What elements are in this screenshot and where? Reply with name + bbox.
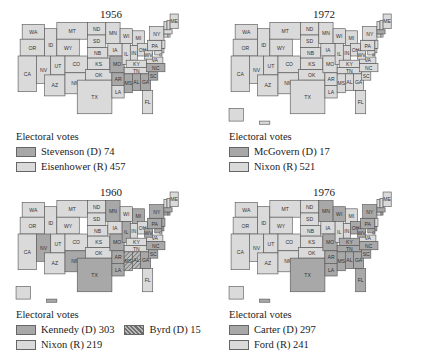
state-label: FL [145, 277, 151, 283]
state-label: LA [328, 267, 335, 273]
state-ct [164, 34, 168, 37]
legend-swatch [229, 325, 249, 335]
legend-swatch [16, 147, 36, 157]
legend-swatch [16, 162, 36, 172]
state-label: MT [281, 206, 289, 212]
legend-label: Stevenson (D) 74 [41, 145, 115, 158]
state-label: AR [328, 254, 335, 260]
state-label: SC [150, 251, 157, 257]
state-label: UT [267, 62, 275, 68]
legend-label: Nixon (R) 219 [41, 338, 102, 351]
state-label: CO [285, 61, 293, 67]
state-label: MT [68, 206, 76, 212]
state-label: WV [145, 230, 154, 236]
state-label: IL [124, 229, 128, 235]
state-label: WI [336, 211, 342, 217]
state-label: SC [363, 251, 370, 257]
legend-entry: Eisenhower (R) 457 [16, 160, 126, 173]
state-label: WV [358, 230, 367, 236]
state-label: AZ [52, 82, 58, 88]
legend-swatch [124, 325, 144, 335]
state-ak [229, 108, 243, 121]
state-label: WY [64, 45, 73, 51]
state-label: TX [304, 94, 311, 100]
state-label: MN [109, 208, 117, 214]
state-label: TN [346, 246, 353, 252]
state-ri [381, 212, 383, 215]
legend-label: Eisenhower (R) 457 [41, 160, 126, 173]
state-label: WY [277, 223, 286, 229]
state-label: NC [365, 65, 373, 71]
state-label: MN [322, 208, 330, 214]
state-label: FL [145, 99, 151, 105]
state-label: KY [346, 61, 353, 67]
state-label: PA [365, 43, 372, 49]
state-label: MI [136, 213, 142, 219]
state-label: LA [115, 89, 122, 95]
state-label: AR [115, 76, 122, 82]
legend-title: Electoral votes [229, 130, 340, 143]
legend-swatch [16, 340, 36, 350]
state-label: AZ [265, 82, 271, 88]
state-label: MO [326, 61, 334, 67]
state-label: WI [123, 211, 129, 217]
state-ct [377, 34, 381, 37]
state-label: MT [281, 28, 289, 34]
state-label: NV [40, 245, 48, 251]
state-label: ME [170, 18, 178, 24]
state-label: NV [40, 67, 48, 73]
state-label: IA [326, 47, 331, 53]
legend-title: Electoral votes [229, 308, 326, 321]
state-dc [373, 232, 375, 234]
legend-entry: Nixon (R) 219 [16, 338, 102, 351]
state-label: ME [170, 196, 178, 202]
state-label: NC [152, 65, 160, 71]
state-label: WI [336, 33, 342, 39]
state-label: IL [337, 229, 341, 235]
legend-entry: Ford (R) 241 [229, 338, 309, 351]
state-label: MT [68, 28, 76, 34]
state-label: OK [95, 250, 103, 256]
state-ct [377, 212, 381, 215]
state-label: KS [95, 239, 102, 245]
state-hi [260, 299, 270, 302]
legend-title: Electoral votes [16, 130, 136, 143]
state-label: OR [242, 223, 250, 229]
map-year-title: 1972 [313, 8, 335, 20]
legend-label: Carter (D) 297 [254, 323, 316, 336]
state-label: FL [358, 277, 364, 283]
state-label: MN [322, 30, 330, 36]
legend: Electoral votesCarter (D) 297Ford (R) 24… [229, 308, 326, 352]
state-label: WY [277, 45, 286, 51]
state-nj [162, 218, 165, 226]
state-label: SD [93, 216, 100, 222]
state-label: TX [304, 272, 311, 278]
map-year-title: 1960 [100, 186, 122, 198]
state-label: CA [24, 249, 32, 255]
state-label: IN [344, 50, 349, 56]
legend-swatch [16, 325, 36, 335]
state-label: LA [328, 89, 335, 95]
state-nj [375, 218, 378, 226]
legend-entry: Carter (D) 297 [229, 323, 316, 336]
state-label: OK [308, 250, 316, 256]
state-label: NB [307, 228, 315, 234]
state-label: CO [72, 61, 80, 67]
state-ak [16, 287, 30, 300]
state-label: IL [337, 51, 341, 57]
state-label: CO [285, 239, 293, 245]
state-label: MN [109, 30, 117, 36]
legend-label: McGovern (D) 17 [254, 145, 330, 158]
state-label: ME [383, 196, 391, 202]
state-vt [164, 199, 167, 207]
state-label: IA [113, 225, 118, 231]
state-label: NC [365, 243, 373, 249]
state-label: NY [153, 208, 161, 214]
state-label: NC [152, 243, 160, 249]
state-label: AL [346, 257, 352, 263]
state-label: MI [349, 213, 355, 219]
state-label: TX [91, 94, 98, 100]
legend-entry: Nixon (R) 521 [229, 160, 315, 173]
state-label: WA [242, 29, 251, 35]
state-label: TN [346, 68, 353, 74]
